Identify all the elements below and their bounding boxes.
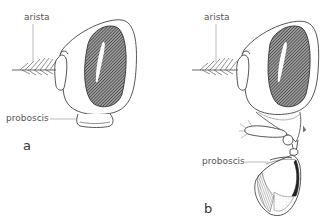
panel-label-a: a	[23, 139, 31, 152]
proboscis-label-b: proboscis	[202, 157, 245, 166]
arista-label-a: arista	[24, 13, 49, 22]
arista-label-b: arista	[204, 13, 229, 22]
panel-b-drawing	[192, 21, 319, 215]
panel-a-drawing	[12, 20, 136, 128]
fly-head-diagram: arista proboscis a arista proboscis b	[0, 0, 321, 221]
proboscis-label-a: proboscis	[6, 114, 49, 123]
panel-label-b: b	[204, 202, 212, 215]
